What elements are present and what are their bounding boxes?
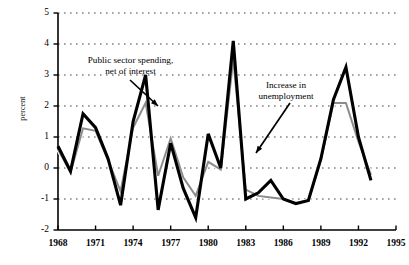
x-tick-label-1977: 1977: [151, 238, 191, 248]
y-tick-label--1: -1: [29, 193, 49, 203]
annotation-spending-line1: Public sector spending,: [63, 55, 198, 66]
x-tick-label-1986: 1986: [263, 238, 303, 248]
x-tick-label-1995: 1995: [376, 238, 409, 248]
annotation-spending-line2: net of interest: [63, 66, 198, 77]
annotation-unemployment-line1: Increase in: [230, 80, 342, 91]
x-tick-label-1974: 1974: [113, 238, 153, 248]
annotation-arrow-unemployment-head: [256, 146, 262, 153]
x-tick-label-1989: 1989: [301, 238, 341, 248]
annotation-arrow-unemployment-shaft: [256, 103, 290, 153]
annotation-spending: Public sector spending, net of interest: [63, 55, 198, 77]
y-tick-label--2: -2: [29, 224, 49, 234]
chart-plot-svg: [0, 0, 409, 265]
y-tick-label-3: 3: [29, 69, 49, 79]
x-tick-label-1980: 1980: [188, 238, 228, 248]
x-tick-label-1992: 1992: [338, 238, 378, 248]
chart-figure: percent Public sector spending, net of i…: [0, 0, 409, 265]
y-axis-label: percent: [18, 79, 27, 139]
annotation-unemployment: Increase in unemployment: [230, 80, 342, 102]
y-tick-label-2: 2: [29, 100, 49, 110]
y-tick-label-5: 5: [29, 7, 49, 17]
x-tick-label-1968: 1968: [38, 238, 78, 248]
x-tick-label-1971: 1971: [76, 238, 116, 248]
y-tick-label-1: 1: [29, 131, 49, 141]
y-tick-label-4: 4: [29, 38, 49, 48]
y-tick-label-0: 0: [29, 162, 49, 172]
annotation-unemployment-line2: unemployment: [230, 91, 342, 102]
x-tick-label-1983: 1983: [226, 238, 266, 248]
